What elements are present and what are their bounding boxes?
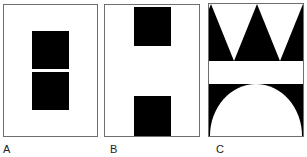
panel-a-bottom-rectangle: [32, 72, 69, 110]
panel-b: [104, 4, 200, 137]
panel-b-bottom-rectangle: [134, 96, 171, 136]
panel-a-label: A: [3, 143, 10, 155]
panel-c-label: C: [216, 143, 224, 155]
panel-a: [3, 4, 98, 137]
panel-c-figure: [209, 4, 303, 136]
panel-b-label: B: [110, 143, 117, 155]
panel-c: [208, 3, 304, 137]
panel-a-top-rectangle: [32, 31, 69, 69]
panel-b-top-rectangle: [134, 7, 171, 46]
